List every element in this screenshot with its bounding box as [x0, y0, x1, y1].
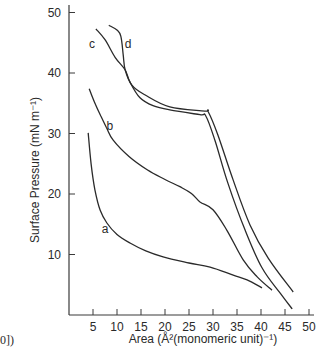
caption-fragment: 0]) — [0, 333, 14, 348]
curve-label-c: c — [89, 37, 95, 51]
y-tick-label: 40 — [48, 66, 62, 80]
x-axis-title: Area (Å²(monomeric unit)⁻¹) — [129, 331, 278, 346]
curve-label-b: b — [106, 119, 113, 133]
curve-label-a: a — [102, 222, 109, 236]
y-axis: 1020304050 — [48, 5, 75, 315]
curve-d — [109, 25, 293, 292]
y-axis-title: Surface Pressure (mN m⁻¹) — [28, 97, 42, 243]
curve-a — [88, 133, 262, 288]
pressure-area-isotherm-chart: 1020304050 5101520253035404550 abcd Surf… — [0, 0, 320, 351]
x-tick-label: 45 — [278, 320, 292, 334]
y-tick-label: 10 — [48, 248, 62, 262]
x-tick-label: 10 — [110, 320, 124, 334]
curve-label-d: d — [125, 37, 132, 51]
curve-b — [89, 89, 272, 291]
x-tick-label: 5 — [90, 320, 97, 334]
y-tick-label: 20 — [48, 187, 62, 201]
y-tick-label: 30 — [48, 127, 62, 141]
curves — [88, 25, 293, 309]
y-tick-label: 50 — [48, 6, 62, 20]
x-axis: 5101520253035404550 — [69, 309, 316, 334]
x-tick-label: 50 — [302, 320, 316, 334]
